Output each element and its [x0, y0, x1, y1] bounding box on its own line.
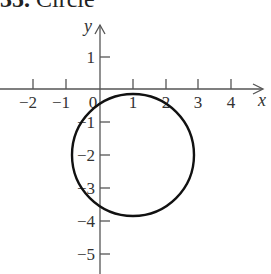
x-tick-label: 1: [129, 93, 138, 112]
x-tick-label: 4: [227, 93, 236, 112]
figure-number: 35.: [0, 0, 30, 12]
x-ticks: [33, 79, 231, 89]
y-tick-labels: 1 −1 −2 −3 −4 −5: [77, 48, 96, 264]
figure-title: 35. Circle: [0, 0, 95, 13]
figure-label: Circle: [36, 0, 95, 12]
circle-graph-figure: 35. Circle −2 −1 0 1 2 3 4 x: [0, 0, 271, 274]
plot-area: −2 −1 0 1 2 3 4 x 1 −1 −2 −3 −4 −5 y: [0, 0, 271, 274]
x-axis-label: x: [257, 90, 266, 110]
y-tick-label: −5: [77, 245, 95, 264]
x-tick-label: 3: [194, 93, 203, 112]
y-tick-label: 1: [87, 48, 96, 67]
x-tick-label: −1: [52, 93, 70, 112]
x-tick-labels: −2 −1 0 1 2 3 4: [19, 93, 236, 112]
y-axis-label: y: [82, 16, 92, 36]
y-ticks: [100, 57, 110, 254]
y-tick-label: −4: [77, 212, 96, 231]
x-tick-label: −2: [19, 93, 37, 112]
y-tick-label: −2: [77, 146, 95, 165]
